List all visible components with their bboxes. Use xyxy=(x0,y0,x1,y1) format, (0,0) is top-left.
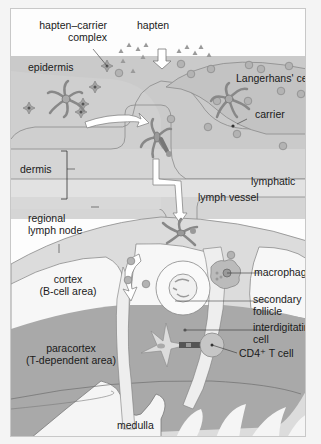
label-line: paracortex xyxy=(21,342,121,354)
label-carrier: carrier xyxy=(255,108,285,120)
label-line: complex xyxy=(27,31,107,43)
label-line: cortex xyxy=(33,273,103,285)
label-interdigitating-cell: interdigitating cell xyxy=(253,321,306,345)
label-langerhans-cell: Langerhans' cell xyxy=(236,72,306,84)
label-cortex: cortex (B-cell area) xyxy=(33,273,103,297)
secondary-follicle xyxy=(156,261,210,315)
diagram-frame: hapten–carrier complex hapten epidermis … xyxy=(10,8,306,437)
label-line: regional xyxy=(28,212,82,224)
label-paracortex: paracortex (T-dependent area) xyxy=(21,342,121,366)
label-line: cell xyxy=(253,333,306,345)
label-macrophage: macrophage xyxy=(254,266,306,278)
label-lymph-vessel: lymph vessel xyxy=(198,191,259,203)
label-line: interdigitating xyxy=(253,321,306,333)
label-line: follicle xyxy=(253,305,301,317)
label-dermis: dermis xyxy=(20,163,52,175)
label-hapten-carrier-complex: hapten–carrier complex xyxy=(27,19,107,43)
label-line: secondary xyxy=(253,293,301,305)
label-lymphatic: lymphatic xyxy=(251,175,295,187)
label-line: lymph node xyxy=(28,224,82,236)
label-medulla: medulla xyxy=(117,419,154,431)
label-line: (T-dependent area) xyxy=(21,354,121,366)
label-hapten: hapten xyxy=(137,19,169,31)
label-cd4-t-cell: CD4⁺ T cell xyxy=(239,347,294,359)
label-epidermis: epidermis xyxy=(28,61,74,73)
label-secondary-follicle: secondary follicle xyxy=(253,293,301,317)
label-regional-lymph-node: regional lymph node xyxy=(28,212,82,236)
label-line: (B-cell area) xyxy=(33,285,103,297)
label-line: hapten–carrier xyxy=(27,19,107,31)
